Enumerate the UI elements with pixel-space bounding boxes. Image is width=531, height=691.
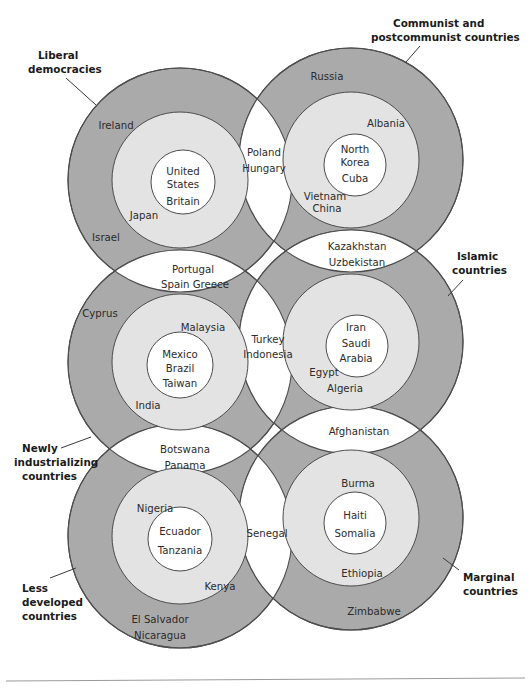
- label-kenya: Kenya: [204, 581, 235, 592]
- label-turkey: Turkey: [250, 334, 284, 345]
- label-indonesia: Indonesia: [243, 349, 292, 360]
- circle-marginal-inner: [324, 492, 386, 554]
- leader-communist: [406, 46, 420, 62]
- venn-diagram-figure: Ireland Israel Japan United States Brita…: [0, 0, 531, 691]
- label-mexico: Mexico: [162, 349, 198, 360]
- label-israel: Israel: [92, 232, 120, 243]
- label-japan: Japan: [129, 210, 158, 221]
- label-haiti: Haiti: [343, 510, 367, 521]
- label-egypt: Egypt: [309, 367, 338, 378]
- label-brazil: Brazil: [166, 363, 194, 374]
- label-algeria: Algeria: [327, 383, 363, 394]
- label-states: States: [167, 179, 199, 190]
- callout-less-line1: Less: [22, 582, 48, 594]
- label-united: United: [166, 166, 199, 177]
- label-somalia: Somalia: [335, 528, 376, 539]
- leader-less-developed: [50, 568, 76, 578]
- callout-islamic-line1: Islamic: [457, 250, 498, 262]
- bottom-rule: [6, 678, 525, 681]
- callout-communist-line2: postcommunist countries: [371, 31, 520, 43]
- label-ethiopia: Ethiopia: [341, 568, 383, 579]
- label-britain: Britain: [166, 196, 200, 207]
- label-russia: Russia: [311, 71, 344, 82]
- label-nigeria: Nigeria: [137, 503, 173, 514]
- label-saudi: Saudi: [342, 338, 370, 349]
- label-korea: Korea: [341, 157, 370, 168]
- label-uzbekistan: Uzbekistan: [329, 257, 385, 268]
- label-hungary: Hungary: [242, 163, 286, 174]
- callout-marginal-line2: countries: [463, 585, 518, 597]
- label-vietnam: Vietnam: [304, 191, 347, 202]
- callout-islamic-line2: countries: [452, 264, 507, 276]
- label-portugal: Portugal: [172, 264, 214, 275]
- callout-communist-line1: Communist and: [393, 17, 484, 29]
- leader-liberal-democracies: [66, 78, 96, 105]
- callout-liberal-democracies-line1: Liberal: [38, 49, 78, 61]
- label-zimbabwe: Zimbabwe: [347, 606, 401, 617]
- label-india: India: [135, 400, 160, 411]
- callout-marginal-line1: Marginal: [463, 571, 514, 583]
- label-nicaragua: Nicaragua: [134, 630, 186, 641]
- callout-less-line2: developed: [22, 596, 83, 608]
- label-burma: Burma: [341, 478, 375, 489]
- label-cuba: Cuba: [342, 173, 368, 184]
- callout-newly-line1: Newly: [22, 442, 58, 454]
- label-albania: Albania: [367, 118, 405, 129]
- label-el-salvador: El Salvador: [131, 614, 189, 625]
- label-poland: Poland: [247, 147, 281, 158]
- label-iran: Iran: [346, 322, 366, 333]
- callout-newly-line3: countries: [22, 470, 77, 482]
- callout-less-line3: countries: [22, 610, 77, 622]
- label-kazakhstan: Kazakhstan: [328, 241, 387, 252]
- venn-diagram-svg: Ireland Israel Japan United States Brita…: [0, 0, 531, 691]
- label-malaysia: Malaysia: [181, 322, 226, 333]
- label-spain-greece: Spain Greece: [161, 279, 229, 290]
- label-afghanistan: Afghanistan: [329, 426, 390, 437]
- callout-liberal-democracies-line2: democracies: [28, 63, 102, 75]
- label-arabia: Arabia: [340, 353, 373, 364]
- label-cyprus: Cyprus: [82, 308, 118, 319]
- label-north: North: [341, 144, 370, 155]
- leader-islamic: [448, 280, 463, 296]
- label-taiwan: Taiwan: [162, 378, 198, 389]
- label-panama: Panama: [165, 460, 206, 471]
- label-botswana: Botswana: [160, 444, 210, 455]
- label-ireland: Ireland: [98, 120, 133, 131]
- leader-newly: [61, 437, 91, 448]
- label-ecuador: Ecuador: [159, 526, 201, 537]
- label-senegal: Senegal: [247, 528, 288, 539]
- label-tanzania: Tanzania: [157, 545, 202, 556]
- circle-less-developed-inner: [148, 507, 212, 571]
- callout-newly-line2: industrializing: [14, 456, 98, 468]
- label-china: China: [312, 203, 341, 214]
